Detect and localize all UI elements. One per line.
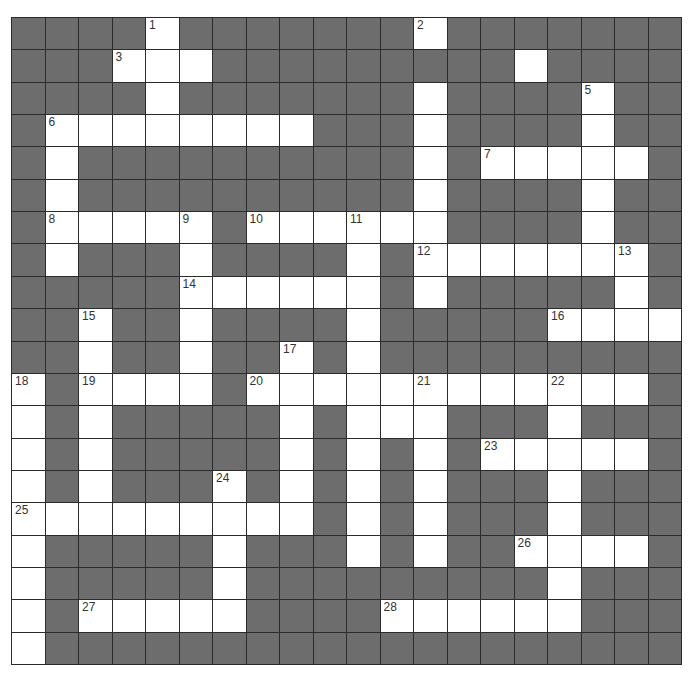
answer-cell[interactable]: 24 [213, 471, 246, 502]
letter-input[interactable] [515, 600, 548, 631]
letter-input[interactable] [381, 406, 414, 437]
letter-input[interactable] [414, 471, 447, 502]
letter-input[interactable] [180, 244, 213, 275]
letter-input[interactable] [347, 406, 380, 437]
answer-cell[interactable]: 23 [481, 439, 514, 470]
answer-cell[interactable] [582, 309, 615, 340]
answer-cell[interactable] [247, 115, 280, 146]
letter-input[interactable] [515, 536, 548, 567]
letter-input[interactable] [414, 147, 447, 178]
letter-input[interactable] [180, 212, 213, 243]
letter-input[interactable] [180, 115, 213, 146]
letter-input[interactable] [582, 115, 615, 146]
answer-cell[interactable] [314, 374, 347, 405]
letter-input[interactable] [548, 309, 581, 340]
answer-cell[interactable] [414, 439, 447, 470]
answer-cell[interactable] [548, 568, 581, 599]
answer-cell[interactable] [381, 374, 414, 405]
letter-input[interactable] [146, 50, 179, 81]
answer-cell[interactable] [280, 406, 313, 437]
answer-cell[interactable] [414, 536, 447, 567]
answer-cell[interactable] [414, 83, 447, 114]
letter-input[interactable] [213, 600, 246, 631]
answer-cell[interactable]: 28 [381, 600, 414, 631]
answer-cell[interactable] [481, 374, 514, 405]
answer-cell[interactable] [548, 471, 581, 502]
letter-input[interactable] [481, 439, 514, 470]
answer-cell[interactable] [79, 342, 112, 373]
letter-input[interactable] [180, 309, 213, 340]
letter-input[interactable] [280, 439, 313, 470]
letter-input[interactable] [113, 212, 146, 243]
letter-input[interactable] [615, 244, 648, 275]
answer-cell[interactable] [448, 374, 481, 405]
answer-cell[interactable] [414, 503, 447, 534]
letter-input[interactable] [113, 503, 146, 534]
letter-input[interactable] [113, 600, 146, 631]
letter-input[interactable] [79, 374, 112, 405]
answer-cell[interactable]: 16 [548, 309, 581, 340]
letter-input[interactable] [113, 374, 146, 405]
answer-cell[interactable]: 27 [79, 600, 112, 631]
letter-input[interactable] [280, 277, 313, 308]
answer-cell[interactable] [582, 439, 615, 470]
answer-cell[interactable] [12, 439, 45, 470]
answer-cell[interactable] [146, 83, 179, 114]
answer-cell[interactable] [481, 600, 514, 631]
answer-cell[interactable] [180, 309, 213, 340]
letter-input[interactable] [314, 374, 347, 405]
answer-cell[interactable] [280, 503, 313, 534]
letter-input[interactable] [548, 147, 581, 178]
letter-input[interactable] [381, 600, 414, 631]
letter-input[interactable] [381, 374, 414, 405]
answer-cell[interactable] [615, 536, 648, 567]
answer-cell[interactable] [180, 374, 213, 405]
letter-input[interactable] [46, 503, 79, 534]
answer-cell[interactable] [146, 50, 179, 81]
letter-input[interactable] [46, 147, 79, 178]
letter-input[interactable] [414, 244, 447, 275]
letter-input[interactable] [347, 212, 380, 243]
answer-cell[interactable]: 15 [79, 309, 112, 340]
answer-cell[interactable] [347, 374, 380, 405]
letter-input[interactable] [414, 600, 447, 631]
answer-cell[interactable]: 2 [414, 18, 447, 49]
answer-cell[interactable] [347, 277, 380, 308]
answer-cell[interactable] [347, 503, 380, 534]
letter-input[interactable] [280, 115, 313, 146]
letter-input[interactable] [582, 212, 615, 243]
answer-cell[interactable]: 14 [180, 277, 213, 308]
answer-cell[interactable] [180, 503, 213, 534]
answer-cell[interactable] [347, 342, 380, 373]
letter-input[interactable] [481, 374, 514, 405]
letter-input[interactable] [146, 374, 179, 405]
answer-cell[interactable] [280, 439, 313, 470]
answer-cell[interactable] [12, 568, 45, 599]
letter-input[interactable] [347, 503, 380, 534]
answer-cell[interactable] [113, 600, 146, 631]
answer-cell[interactable] [347, 536, 380, 567]
answer-cell[interactable] [548, 147, 581, 178]
letter-input[interactable] [615, 309, 648, 340]
letter-input[interactable] [615, 374, 648, 405]
answer-cell[interactable] [46, 147, 79, 178]
letter-input[interactable] [213, 568, 246, 599]
letter-input[interactable] [213, 536, 246, 567]
letter-input[interactable] [79, 115, 112, 146]
answer-cell[interactable]: 19 [79, 374, 112, 405]
letter-input[interactable] [515, 374, 548, 405]
letter-input[interactable] [515, 244, 548, 275]
answer-cell[interactable] [414, 277, 447, 308]
letter-input[interactable] [247, 374, 280, 405]
answer-cell[interactable] [347, 439, 380, 470]
answer-cell[interactable] [414, 600, 447, 631]
answer-cell[interactable] [548, 503, 581, 534]
letter-input[interactable] [381, 212, 414, 243]
letter-input[interactable] [12, 568, 45, 599]
answer-cell[interactable] [12, 536, 45, 567]
letter-input[interactable] [582, 180, 615, 211]
letter-input[interactable] [213, 503, 246, 534]
letter-input[interactable] [213, 277, 246, 308]
letter-input[interactable] [12, 600, 45, 631]
letter-input[interactable] [180, 600, 213, 631]
